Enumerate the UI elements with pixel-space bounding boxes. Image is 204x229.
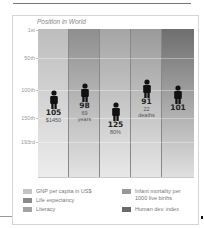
chart-title: Position in World (37, 18, 86, 25)
legend-swatch (23, 198, 32, 203)
legend-label-line1: Infant mortality per (135, 188, 181, 194)
legend-item-human-dev: Human dev. index (122, 206, 179, 213)
legend-label: GNP per capita in US$ (36, 188, 92, 195)
indicator-unit: years (69, 116, 100, 122)
plot-area: 105 $1450 98 69 years 125 80% 91 22 deat… (38, 29, 194, 178)
legend: GNP per capita in US$ Life expectancy Li… (13, 186, 200, 222)
indicator-value: 80% (100, 129, 131, 135)
rank-value: 91 (131, 98, 162, 106)
legend-item-life-expectancy: Life expectancy (23, 197, 74, 204)
marker-literacy: 125 80% (100, 102, 131, 135)
legend-label: Literacy (36, 206, 55, 213)
gridline (38, 58, 194, 59)
rank-value: 125 (100, 121, 131, 129)
indicator-unit: deaths (131, 112, 162, 118)
person-icon (111, 102, 121, 121)
ytick-label: 100th (13, 87, 35, 93)
marker-life-expectancy: 98 69 years (69, 83, 100, 122)
ytick-label: 150th (13, 115, 35, 121)
legend-swatch (122, 207, 131, 212)
legend-swatch (23, 207, 32, 212)
ytick-label: 193rd (13, 139, 35, 145)
legend-label: Infant mortality per1000 live births (135, 188, 181, 201)
ytick-label: 1st (13, 27, 35, 33)
legend-item-literacy: Literacy (23, 206, 55, 213)
legend-item-gnp: GNP per capita in US$ (23, 188, 92, 195)
person-icon (49, 90, 59, 109)
corner-mark (201, 216, 203, 219)
person-icon (173, 85, 183, 104)
top-rule (13, 3, 191, 4)
legend-swatch (23, 189, 32, 194)
legend-label: Life expectancy (36, 197, 74, 204)
legend-label-line2: 1000 live births (135, 195, 172, 201)
gridline (38, 142, 194, 143)
marker-infant-mortality: 91 22 deaths (131, 79, 162, 118)
marker-gnp: 105 $1450 (38, 90, 69, 123)
person-icon (80, 83, 90, 102)
legend-label: Human dev. index (135, 206, 179, 213)
person-icon (142, 79, 152, 98)
legend-item-infant-mortality: Infant mortality per1000 live births (122, 188, 181, 201)
rank-value: 105 (38, 109, 69, 117)
chart-card: Position in World 1st 50th 100th 150th 1… (12, 15, 199, 225)
rank-value: 101 (162, 104, 194, 112)
legend-swatch (122, 189, 131, 194)
ytick-label: 50th (13, 55, 35, 61)
indicator-value: $1450 (38, 117, 69, 123)
marker-human-dev: 101 (162, 85, 194, 112)
rank-value: 98 (69, 102, 100, 110)
